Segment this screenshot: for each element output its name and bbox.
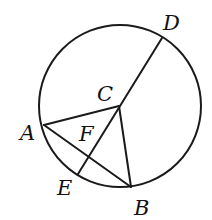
segment-cb [119,106,131,187]
geometry-figure: DCAFEB [0,0,212,220]
label-point-b: B [133,196,149,220]
segments [44,38,162,187]
circle-diagram: DCAFEB [0,0,212,220]
label-point-d: D [162,11,180,35]
label-point-f: F [78,122,95,146]
point-labels: DCAFEB [18,11,180,220]
label-point-c: C [97,82,113,106]
label-point-a: A [18,121,35,145]
label-point-e: E [56,176,72,200]
